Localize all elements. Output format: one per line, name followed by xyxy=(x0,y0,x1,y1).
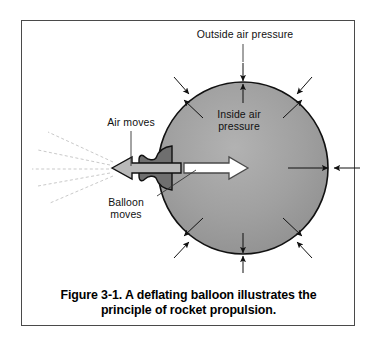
escaping-air-line xyxy=(38,150,110,165)
escaping-air-line xyxy=(48,132,113,162)
figure-caption-line-1: Figure 3-1. A deflating balloon illustra… xyxy=(61,288,317,302)
label-outside-air-pressure: Outside air pressure xyxy=(175,28,315,40)
outside-pressure-arrow xyxy=(174,77,189,94)
figure-caption: Figure 3-1. A deflating balloon illustra… xyxy=(40,288,337,318)
label-inside-air-pressure: Inside air pressure xyxy=(196,108,282,132)
label-air-moves: Air moves xyxy=(92,116,170,128)
figure-caption-line-2: principle of rocket propulsion. xyxy=(101,303,276,317)
outside-pressure-arrow xyxy=(174,242,189,258)
escaping-air-streams xyxy=(32,132,113,203)
label-balloon-moves: Balloon moves xyxy=(90,196,162,220)
outside-pressure-arrow xyxy=(297,242,312,258)
escaping-air-line xyxy=(38,173,110,186)
outside-pressure-arrow xyxy=(297,77,312,94)
figure-container: Outside air pressure Inside air pressure… xyxy=(0,0,380,350)
